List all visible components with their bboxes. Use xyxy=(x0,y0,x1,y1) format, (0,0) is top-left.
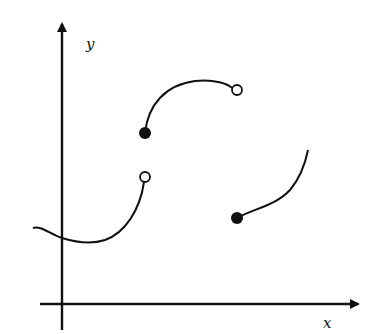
x-axis-label: x xyxy=(323,316,331,331)
filled-endpoint-piece-2 xyxy=(139,127,151,139)
function-graph-figure: y x xyxy=(0,0,374,334)
open-endpoint-piece-1 xyxy=(140,172,150,182)
curve-piece-3 xyxy=(237,150,308,218)
filled-endpoint-piece-3 xyxy=(231,212,243,224)
curve-piece-1 xyxy=(33,182,144,243)
curve-piece-2 xyxy=(145,81,232,133)
open-endpoint-piece-2 xyxy=(232,85,242,95)
y-axis-label: y xyxy=(86,37,94,52)
graph-canvas xyxy=(0,0,374,334)
